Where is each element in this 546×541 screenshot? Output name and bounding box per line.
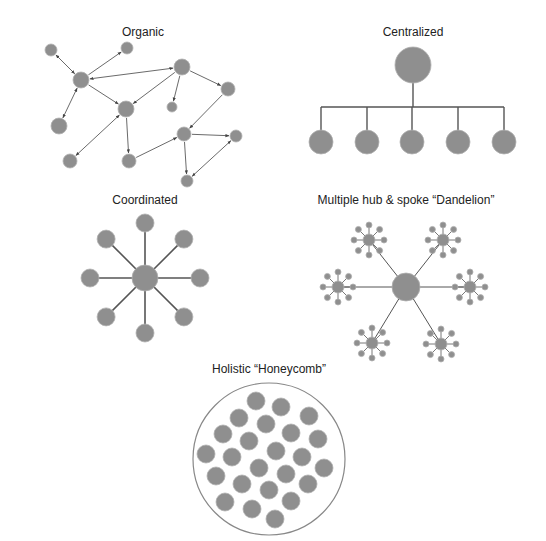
dandelion-petal-node — [358, 351, 364, 357]
honeycomb-cell-node — [247, 392, 265, 410]
dandelion-petal-node — [350, 284, 356, 290]
organic-node — [177, 127, 191, 141]
dandelion-petal-node — [423, 341, 429, 347]
centralized-child-node — [492, 130, 516, 154]
organic-node — [221, 82, 235, 96]
dandelion-petal-node — [335, 299, 341, 305]
organic-edge — [127, 118, 129, 153]
organic-edge — [88, 52, 121, 75]
organic-edge — [185, 142, 187, 174]
dandelion-hub-node — [332, 281, 344, 293]
dandelion-petal-node — [369, 355, 375, 361]
organic-edge — [192, 141, 231, 177]
honeycomb-cell-node — [240, 432, 258, 450]
dandelion-petal-node — [324, 273, 330, 279]
dandelion-petal-node — [384, 340, 390, 346]
honeycomb-cell-node — [223, 448, 241, 466]
dandelion-petal-node — [467, 299, 473, 305]
coordinated-leaf-node — [81, 269, 99, 287]
diagram-svg — [0, 0, 546, 541]
dandelion-petal-node — [440, 252, 446, 258]
coordinated-leaf-node — [175, 230, 193, 248]
dandelion-petal-node — [455, 237, 461, 243]
honeycomb-cell-node — [282, 492, 300, 510]
dandelion-petal-node — [429, 226, 435, 232]
dandelion-petal-node — [380, 351, 386, 357]
organic-edge — [90, 68, 173, 79]
dandelion-hub-node — [363, 234, 375, 246]
dandelion-hub-node — [464, 281, 476, 293]
honeycomb-cell-node — [315, 459, 333, 477]
honeycomb-title: Holistic “Honeycomb” — [212, 362, 326, 376]
honeycomb-cell-node — [257, 415, 275, 433]
organic-node — [45, 44, 57, 56]
dandelion-petal-node — [449, 352, 455, 358]
dandelion-petal-node — [346, 273, 352, 279]
dandelion-petal-node — [429, 248, 435, 254]
honeycomb-cell-node — [272, 398, 290, 416]
coordinated-leaf-node — [136, 324, 154, 342]
organic-node — [230, 130, 242, 142]
dandelion-petal-node — [320, 284, 326, 290]
dandelion-center-node — [392, 273, 420, 301]
dandelion-petal-node — [377, 248, 383, 254]
dandelion-petal-node — [366, 252, 372, 258]
dandelion-petal-node — [381, 237, 387, 243]
organic-network — [45, 42, 242, 187]
coordinated-leaf-node — [191, 269, 209, 287]
dandelion-petal-node — [324, 295, 330, 301]
centralized-child-node — [400, 130, 424, 154]
honeycomb-cell-node — [260, 481, 278, 499]
centralized-root-node — [395, 47, 431, 83]
honeycomb-cell-node — [216, 493, 234, 511]
organic-node — [118, 101, 134, 117]
dandelion-petal-node — [440, 222, 446, 228]
honeycomb-cell-node — [230, 409, 248, 427]
dandelion-petal-node — [438, 326, 444, 332]
organic-edge — [63, 88, 77, 118]
coordinated-network — [81, 214, 209, 342]
dandelion-petal-node — [377, 226, 383, 232]
dandelion-petal-node — [453, 341, 459, 347]
dandelion-petal-node — [478, 295, 484, 301]
dandelion-network — [320, 222, 488, 362]
coordinated-leaf-node — [97, 230, 115, 248]
honeycomb-cell-node — [214, 425, 232, 443]
organic-node — [121, 42, 133, 54]
honeycomb-cell-node — [266, 510, 284, 528]
dandelion-petal-node — [366, 222, 372, 228]
centralized-child-node — [309, 130, 333, 154]
dandelion-hub-node — [366, 337, 378, 349]
dandelion-petal-node — [438, 356, 444, 362]
organic-node — [122, 154, 136, 168]
organic-edge — [190, 71, 221, 86]
centralized-network — [309, 47, 516, 154]
honeycomb-cell-node — [207, 467, 225, 485]
network-diagrams-canvas: Organic Centralized Coordinated Multiple… — [0, 0, 546, 541]
organic-edge — [56, 55, 75, 74]
organic-node — [174, 59, 190, 75]
honeycomb-cell-node — [309, 430, 327, 448]
dandelion-petal-node — [355, 248, 361, 254]
coordinated-title: Coordinated — [112, 193, 177, 207]
honeycomb-cell-node — [300, 407, 318, 425]
honeycomb-cell-node — [233, 475, 251, 493]
dandelion-petal-node — [369, 325, 375, 331]
honeycomb-cell-node — [243, 500, 261, 518]
organic-node — [181, 175, 193, 187]
organic-edge — [192, 134, 229, 135]
dandelion-petal-node — [425, 237, 431, 243]
centralized-child-node — [355, 130, 379, 154]
organic-edge — [133, 72, 175, 103]
dandelion-petal-node — [427, 330, 433, 336]
organic-edge — [136, 138, 177, 158]
dandelion-hub-node — [437, 234, 449, 246]
honeycomb-cell-node — [267, 442, 285, 460]
honeycomb-network — [193, 383, 345, 535]
dandelion-petal-node — [451, 226, 457, 232]
organic-node — [63, 154, 77, 168]
dandelion-petal-node — [427, 352, 433, 358]
dandelion-petal-node — [355, 226, 361, 232]
honeycomb-cell-node — [282, 424, 300, 442]
dandelion-petal-node — [449, 330, 455, 336]
